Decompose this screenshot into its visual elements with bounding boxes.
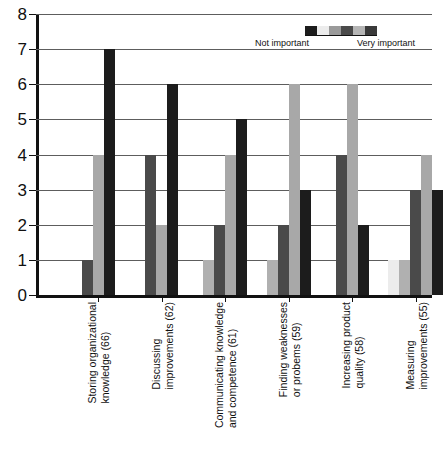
x-category-label-line2: or probems (59) xyxy=(289,302,302,397)
plot-area: 012345678 xyxy=(36,14,432,298)
bar xyxy=(203,260,214,295)
x-category-label-line2: and competence (61) xyxy=(226,302,239,428)
y-tick-label-4: 4 xyxy=(18,146,27,163)
bar xyxy=(388,260,399,295)
bar xyxy=(104,49,115,295)
x-tick xyxy=(225,295,226,302)
x-category-label-line2: quality (58) xyxy=(353,302,366,388)
x-category-label-line2: knowledge (66) xyxy=(99,302,112,404)
bar xyxy=(399,260,410,295)
x-category-label-line2: improvements (62) xyxy=(162,302,175,390)
legend-swatch-2 xyxy=(317,26,329,35)
x-axis-category-labels: Storing organizationalknowledge (66)Disc… xyxy=(36,302,432,460)
bar xyxy=(300,190,311,295)
x-category-label-line1: Measuring xyxy=(404,341,416,390)
y-tick-2 xyxy=(29,225,36,226)
bar xyxy=(267,260,278,295)
x-category-label-line1: Finding weaknesses xyxy=(277,302,289,397)
bar xyxy=(225,155,236,296)
y-tick-6 xyxy=(29,84,36,85)
bar xyxy=(236,119,247,295)
x-category-label: Storing organizationalknowledge (66) xyxy=(86,302,111,404)
bar xyxy=(167,84,178,295)
x-category-label: Increasing productquality (58) xyxy=(340,302,365,388)
y-tick-label-1: 1 xyxy=(18,251,27,268)
x-axis xyxy=(36,295,432,298)
x-category-label: Finding weaknessesor probems (59) xyxy=(277,302,302,397)
y-tick-0 xyxy=(29,295,36,296)
bar xyxy=(278,225,289,295)
bar-group xyxy=(69,14,127,295)
legend-label-low: Not important xyxy=(255,38,309,48)
y-tick-8 xyxy=(29,14,36,15)
bar xyxy=(289,84,300,295)
y-tick-5 xyxy=(29,119,36,120)
x-category-label-line1: Communicating knowledge xyxy=(213,302,225,428)
legend-swatch-1 xyxy=(305,26,317,35)
bar-group xyxy=(260,14,318,295)
bar xyxy=(347,84,358,295)
y-tick-7 xyxy=(29,49,36,50)
x-category-label-line1: Storing organizational xyxy=(86,302,98,404)
y-tick-3 xyxy=(29,190,36,191)
y-tick-4 xyxy=(29,155,36,156)
x-category-label: Discussingimprovements (62) xyxy=(150,302,175,390)
bar xyxy=(156,225,167,295)
bar-chart: 012345678 Not important Very important S… xyxy=(0,0,446,460)
bar-group xyxy=(196,14,254,295)
x-tick xyxy=(162,295,163,302)
x-tick xyxy=(98,295,99,302)
bar xyxy=(336,155,347,296)
x-category-label-line2: improvements (55) xyxy=(416,302,429,390)
y-tick-label-2: 2 xyxy=(18,216,27,233)
bar-group xyxy=(133,14,191,295)
y-tick-label-6: 6 xyxy=(18,76,27,93)
x-tick xyxy=(352,295,353,302)
legend-swatch-5 xyxy=(353,26,365,35)
bar xyxy=(358,225,369,295)
y-tick-label-8: 8 xyxy=(18,6,27,23)
y-tick-label-0: 0 xyxy=(18,287,27,304)
bar xyxy=(432,190,443,295)
bar xyxy=(214,225,225,295)
y-tick-1 xyxy=(29,260,36,261)
legend-gradient-swatch xyxy=(305,26,377,36)
x-category-label: Measuringimprovements (55) xyxy=(404,302,429,390)
y-tick-label-5: 5 xyxy=(18,111,27,128)
bar-group xyxy=(387,14,445,295)
legend-swatch-4 xyxy=(341,26,353,35)
legend-swatch-3 xyxy=(329,26,341,35)
y-tick-label-3: 3 xyxy=(18,181,27,198)
bar xyxy=(145,155,156,296)
bar xyxy=(93,155,104,296)
x-category-label-line1: Increasing product xyxy=(340,302,352,388)
legend-label-high: Very important xyxy=(357,38,415,48)
bars-layer xyxy=(39,14,432,295)
x-tick xyxy=(416,295,417,302)
legend-swatch-6 xyxy=(365,26,377,35)
bar-group xyxy=(323,14,381,295)
x-tick xyxy=(289,295,290,302)
bar xyxy=(421,155,432,296)
x-category-label: Communicating knowledgeand competence (6… xyxy=(213,302,238,428)
bar xyxy=(410,190,421,295)
x-category-label-line1: Discussing xyxy=(150,339,162,390)
y-tick-label-7: 7 xyxy=(18,41,27,58)
bar xyxy=(82,260,93,295)
